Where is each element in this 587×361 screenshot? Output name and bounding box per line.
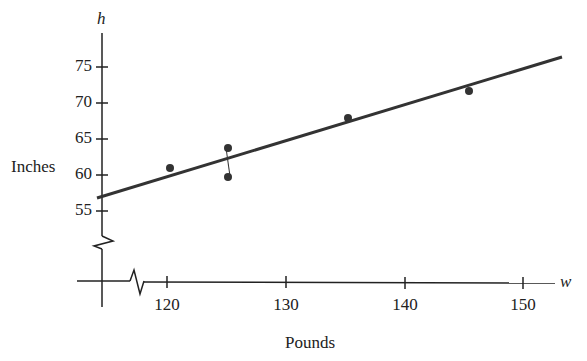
- x-axis-variable: w: [560, 272, 571, 292]
- y-axis-break: [94, 236, 113, 249]
- x-tick-label-130: 130: [266, 295, 306, 315]
- residual-segment: [226, 148, 230, 177]
- x-tick-label-120: 120: [147, 295, 187, 315]
- x-tick-label-150: 150: [503, 295, 543, 315]
- y-axis-title: Inches: [11, 157, 55, 177]
- x-axis-break: [130, 270, 144, 294]
- y-tick-label-70: 70: [52, 92, 92, 112]
- regression-line: [97, 57, 562, 198]
- data-points: [166, 87, 473, 181]
- y-tick-label-65: 65: [52, 128, 92, 148]
- y-axis-variable: h: [97, 9, 106, 29]
- x-axis-title: Pounds: [285, 333, 335, 353]
- y-tick-label-55: 55: [52, 200, 92, 220]
- y-tick-label-60: 60: [52, 164, 92, 184]
- y-tick-label-75: 75: [52, 56, 92, 76]
- x-tick-label-140: 140: [385, 295, 425, 315]
